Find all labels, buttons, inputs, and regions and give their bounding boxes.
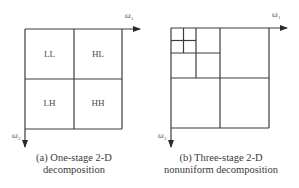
panel-a-omega1-subscript: 1: [131, 16, 134, 21]
subband-hh-label: HH: [92, 98, 105, 108]
panel-b-omega1-subscript: 1: [278, 15, 281, 20]
subband-hl-label: HL: [92, 49, 104, 59]
panel-a-caption: (a) One-stage 2-D decomposition: [24, 152, 124, 176]
panel-b-caption-line1: (b) Three-stage 2-D: [160, 152, 282, 164]
panel-a-caption-line2: decomposition: [24, 164, 124, 176]
panel-b-omega2-subscript: 2: [164, 136, 167, 141]
panel-b-diagram: [171, 28, 287, 147]
subband-ll-label: LL: [44, 49, 55, 59]
panel-a-omega2-subscript: 2: [18, 136, 21, 141]
panel-b-caption: (b) Three-stage 2-D nonuniform decomposi…: [160, 152, 282, 176]
panel-b-caption-line2: nonuniform decomposition: [160, 164, 282, 176]
panel-a-diagram: [25, 29, 140, 147]
subband-lh-label: LH: [44, 98, 56, 108]
panel-a-caption-line1: (a) One-stage 2-D: [24, 152, 124, 164]
